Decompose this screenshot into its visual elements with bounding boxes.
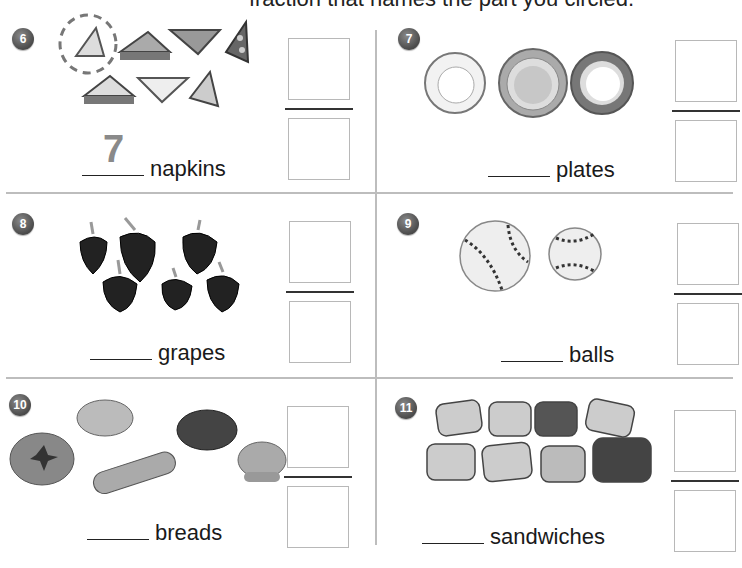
numerator-box[interactable] [675,40,737,102]
answer-blank[interactable] [501,360,563,362]
fraction-boxes [285,38,353,180]
denominator-box[interactable] [677,303,739,365]
vertical-divider [375,30,377,545]
numerator-box[interactable] [677,223,739,285]
answer-blank[interactable] [488,175,550,177]
problem-number-badge: 7 [398,28,420,50]
answer-blank[interactable] [82,174,144,176]
fraction-bar [284,476,352,478]
denominator-box[interactable] [675,120,737,182]
denominator-box[interactable] [287,486,349,548]
napkins-illustration [58,14,258,114]
answer-label: breads [87,520,222,546]
instruction-header: fraction that names the part you circled… [0,0,739,12]
problem-number-badge: 11 [395,397,417,419]
horizontal-divider-1 [6,192,733,194]
noun-label: plates [556,157,615,182]
balls-illustration [460,220,605,300]
fraction-boxes [671,410,739,552]
problem-number-badge: 8 [12,213,34,235]
instruction-text: fraction that names the part you circled… [249,0,634,11]
answer-label: napkins [82,156,226,182]
noun-label: napkins [150,156,226,181]
fraction-boxes [674,223,742,365]
numerator-box[interactable] [289,221,351,283]
fraction-bar [285,108,353,110]
noun-label: sandwiches [490,524,605,549]
problem-number-badge: 6 [12,28,34,50]
fraction-bar [672,110,740,112]
breads-illustration [12,400,282,490]
sandwiches-illustration [425,398,665,488]
problem-number-badge: 9 [397,213,419,235]
denominator-box[interactable] [289,301,351,363]
plates-illustration [425,50,635,122]
answer-label: sandwiches [422,524,605,550]
fraction-boxes [672,40,740,182]
noun-label: balls [569,342,614,367]
horizontal-divider-2 [6,377,733,379]
grapes-illustration [75,212,245,312]
answer-label: plates [488,157,615,183]
fraction-boxes [286,221,354,363]
fraction-bar [674,293,742,295]
numerator-box[interactable] [288,38,350,100]
noun-label: grapes [158,340,225,365]
answer-blank[interactable] [90,358,152,360]
numerator-box[interactable] [674,410,736,472]
fraction-bar [286,291,354,293]
numerator-box[interactable] [287,406,349,468]
answer-blank[interactable] [87,538,149,540]
answer-blank[interactable] [422,542,484,544]
denominator-box[interactable] [288,118,350,180]
fraction-boxes [284,406,352,548]
fraction-bar [671,480,739,482]
answer-label: grapes [90,340,225,366]
answer-label: balls [501,342,614,368]
noun-label: breads [155,520,222,545]
denominator-box[interactable] [674,490,736,552]
